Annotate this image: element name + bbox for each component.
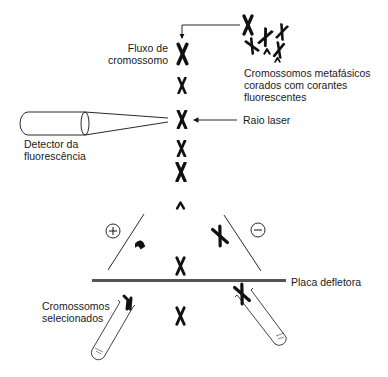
deflector-plate bbox=[92, 279, 286, 282]
fluorescence-detector bbox=[20, 112, 168, 135]
label-chromosome-flow: Fluxo de cromossomo bbox=[100, 42, 168, 66]
chromosome-stream bbox=[177, 44, 187, 324]
negative-deflector bbox=[213, 215, 265, 271]
label-laser-beam: Raio laser bbox=[243, 114, 290, 126]
positive-deflector bbox=[106, 214, 144, 270]
label-fluorescence-detector: Detector da fluorescência bbox=[24, 138, 86, 162]
metaphase-chromosome-cluster bbox=[244, 16, 287, 62]
label-selected-chromosomes: Cromossomos selecionados bbox=[42, 300, 110, 324]
input-arrow bbox=[182, 25, 240, 38]
label-metaphase-chromosomes: Cromossomos metafásicos corados com cora… bbox=[244, 67, 371, 103]
right-collection-tube bbox=[235, 284, 287, 345]
label-deflector-plate: Placa defletora bbox=[291, 276, 361, 288]
